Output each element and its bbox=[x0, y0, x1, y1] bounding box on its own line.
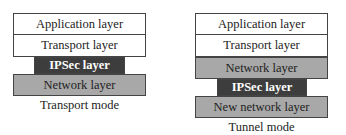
transport-layer-box: Transport layer bbox=[13, 34, 146, 57]
network-layer-box: Network layer bbox=[195, 57, 328, 79]
transport-mode-caption: Transport mode bbox=[13, 98, 146, 113]
transport-layer-box: Transport layer bbox=[195, 34, 328, 57]
application-layer-box: Application layer bbox=[195, 13, 328, 35]
ipsec-layer-box: IPSec layer bbox=[217, 79, 307, 96]
new-network-layer-box: New network layer bbox=[195, 96, 328, 118]
network-layer-box: Network layer bbox=[13, 74, 146, 96]
ipsec-layer-box: IPSec layer bbox=[34, 57, 125, 74]
application-layer-box: Application layer bbox=[13, 13, 146, 35]
tunnel-mode-caption: Tunnel mode bbox=[195, 120, 328, 135]
